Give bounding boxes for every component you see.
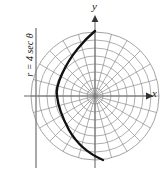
coordinate-axes bbox=[24, 20, 147, 168]
y-axis-arrowhead bbox=[92, 15, 99, 22]
grid-spoke bbox=[95, 96, 140, 141]
grid-spoke bbox=[95, 64, 150, 96]
grid-spoke bbox=[95, 41, 127, 96]
x-axis-label: x bbox=[152, 88, 157, 99]
grid-spoke bbox=[78, 96, 95, 158]
grid-spoke bbox=[95, 96, 112, 158]
grid-spoke bbox=[95, 51, 140, 96]
grid-spoke bbox=[95, 96, 127, 151]
grid-spoke bbox=[33, 96, 95, 113]
grid-spoke bbox=[95, 96, 150, 128]
y-axis-label: y bbox=[92, 1, 97, 12]
grid-spoke bbox=[40, 96, 95, 128]
curve-equation-label: r = 4 sec θ bbox=[25, 19, 35, 91]
grid-spoke bbox=[40, 64, 95, 96]
grid-spoke bbox=[33, 79, 95, 96]
grid-spoke bbox=[95, 34, 112, 96]
polar-graph-figure: y x r = 4 sec θ bbox=[0, 0, 164, 175]
